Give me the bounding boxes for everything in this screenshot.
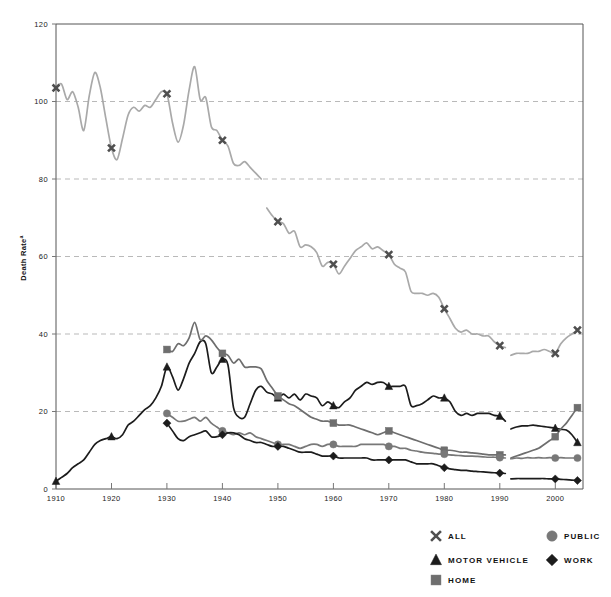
y-axis-title: Death Ratea (18, 235, 28, 280)
x-tick-label-1920: 1920 (102, 494, 120, 503)
x-tick-label-1930: 1930 (158, 494, 176, 503)
x-tick-label-1950: 1950 (269, 494, 287, 503)
legend-label-home: HOME (448, 576, 476, 585)
y-tick-label-20: 20 (39, 407, 48, 416)
marker-glyph-square (330, 420, 337, 427)
chart-background (0, 0, 611, 597)
y-tick-label-60: 60 (39, 252, 48, 261)
marker-home-2004 (574, 404, 581, 411)
marker-glyph-circle (385, 443, 392, 450)
marker-glyph-square (431, 575, 441, 585)
marker-glyph-square (385, 427, 392, 434)
marker-glyph-square (552, 433, 559, 440)
legend-item-work[interactable]: WORK (546, 554, 594, 566)
legend-marker-public-icon (547, 531, 557, 541)
legend-item-home[interactable]: HOME (431, 575, 476, 585)
y-axis-title-text: Death Ratea (18, 235, 28, 280)
legend-marker-home-icon (431, 575, 441, 585)
y-tick-label-80: 80 (39, 175, 48, 184)
x-tick-label-1940: 1940 (213, 494, 231, 503)
x-tick-label-1960: 1960 (324, 494, 342, 503)
legend-label-motor-vehicle: MOTOR VEHICLE (448, 556, 529, 565)
marker-home-1960 (330, 420, 337, 427)
y-axis-title-superscript: a (18, 235, 24, 238)
marker-home-2000 (552, 433, 559, 440)
legend-label-all: ALL (448, 532, 467, 541)
marker-public-1930 (163, 410, 170, 417)
x-tick-label-1970: 1970 (380, 494, 398, 503)
marker-home-1970 (385, 427, 392, 434)
marker-public-2000 (552, 454, 559, 461)
death-rate-line-chart: 020406080100120 191019201930194019501960… (0, 0, 611, 597)
chart-container: 020406080100120 191019201930194019501960… (0, 0, 611, 597)
marker-home-1950 (274, 393, 281, 400)
legend-label-work: WORK (564, 556, 594, 565)
marker-glyph-circle (441, 451, 448, 458)
marker-home-1940 (219, 350, 226, 357)
marker-glyph-circle (552, 454, 559, 461)
marker-public-1990 (496, 454, 503, 461)
marker-glyph-circle (163, 410, 170, 417)
y-tick-label-100: 100 (34, 97, 48, 106)
marker-glyph-square (164, 346, 171, 353)
marker-glyph-square (274, 393, 281, 400)
x-tick-label-1980: 1980 (435, 494, 453, 503)
y-tick-label-40: 40 (39, 330, 48, 339)
marker-glyph-square (219, 350, 226, 357)
x-tick-label-1990: 1990 (491, 494, 509, 503)
marker-public-1970 (385, 443, 392, 450)
marker-home-1930 (164, 346, 171, 353)
marker-glyph-circle (496, 454, 503, 461)
y-tick-label-0: 0 (43, 485, 48, 494)
legend-item-public[interactable]: PUBLIC (547, 531, 601, 541)
x-tick-label-2000: 2000 (546, 494, 564, 503)
x-tick-label-1910: 1910 (47, 494, 65, 503)
legend-label-public: PUBLIC (564, 532, 600, 541)
marker-glyph-circle (547, 531, 557, 541)
marker-public-1980 (441, 451, 448, 458)
series-line-public-seg1 (511, 458, 578, 459)
marker-glyph-circle (574, 454, 581, 461)
marker-public-1960 (330, 441, 337, 448)
marker-glyph-circle (330, 441, 337, 448)
marker-glyph-square (574, 404, 581, 411)
marker-public-2004 (574, 454, 581, 461)
y-tick-label-120: 120 (34, 20, 48, 29)
